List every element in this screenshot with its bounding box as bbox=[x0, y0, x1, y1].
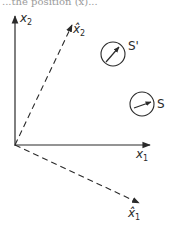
x1-hat-axis bbox=[15, 145, 139, 203]
x2-hat-axis bbox=[15, 25, 72, 145]
s-prime-label: S' bbox=[128, 39, 139, 53]
s-arrow-icon bbox=[134, 102, 151, 108]
object-s: S bbox=[130, 92, 165, 116]
x2-axis-label: x2 bbox=[19, 11, 32, 27]
s-label: S bbox=[157, 97, 165, 111]
coordinate-rotation-diagram: ...the position (x)... x2 x1 x̂2 x̂1 S' … bbox=[0, 0, 171, 226]
x1-axis-label: x1 bbox=[135, 147, 148, 163]
s-circle bbox=[130, 92, 154, 116]
x2-hat-axis-label: x̂2 bbox=[72, 22, 85, 38]
x1-hat-axis-label: x̂1 bbox=[127, 206, 140, 222]
object-s-prime: S' bbox=[101, 39, 139, 66]
top-text-fragment: ...the position (x)... bbox=[2, 0, 98, 7]
s-prime-arrow-icon bbox=[106, 47, 119, 62]
